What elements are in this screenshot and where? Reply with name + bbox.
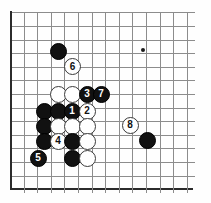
go-board-diagram: 63712845 — [0, 0, 211, 203]
stone-black-move-7[interactable]: 7 — [93, 86, 110, 103]
stone-white[interactable] — [79, 118, 96, 135]
stone-white[interactable] — [64, 86, 81, 103]
stone-black-move-5[interactable]: 5 — [30, 150, 47, 167]
board-edge-left — [10, 11, 12, 190]
grid-line-vertical — [187, 12, 188, 193]
grid-line-vertical — [146, 12, 147, 193]
stone-black[interactable] — [64, 133, 81, 150]
stone-white[interactable] — [64, 118, 81, 135]
star-point — [141, 48, 145, 52]
stone-black-move-1[interactable]: 1 — [64, 103, 81, 120]
stone-move-number: 8 — [127, 120, 133, 130]
grid-line-vertical — [64, 12, 65, 193]
stone-move-number: 5 — [35, 153, 41, 163]
grid-line-vertical — [92, 12, 93, 193]
stone-white-move-6[interactable]: 6 — [64, 58, 81, 75]
grid-line-vertical — [105, 12, 106, 193]
stone-black[interactable] — [139, 132, 156, 149]
grid-line-vertical — [24, 12, 25, 193]
stone-move-number: 1 — [69, 106, 75, 116]
stone-white-move-2[interactable]: 2 — [79, 103, 96, 120]
stone-move-number: 2 — [84, 106, 90, 116]
stone-move-number: 3 — [84, 89, 90, 99]
stone-black[interactable] — [50, 43, 67, 60]
grid-line-vertical — [119, 12, 120, 193]
grid-line-vertical — [160, 12, 161, 193]
stone-white[interactable] — [79, 150, 96, 167]
grid-line-vertical — [78, 12, 79, 193]
stone-white-move-8[interactable]: 8 — [122, 117, 139, 134]
grid-line-vertical — [51, 12, 52, 193]
stone-black[interactable] — [64, 150, 81, 167]
stone-move-number: 4 — [55, 136, 61, 146]
grid-line-vertical — [132, 12, 133, 193]
grid-line-vertical — [173, 12, 174, 193]
stone-white[interactable] — [79, 133, 96, 150]
stone-move-number: 7 — [98, 89, 104, 99]
stone-move-number: 6 — [70, 61, 76, 71]
